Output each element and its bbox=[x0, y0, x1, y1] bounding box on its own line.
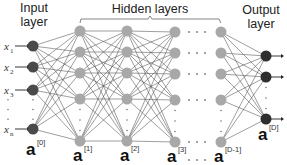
hidden1-neuron-4 bbox=[75, 94, 86, 105]
hidden3-neuron-4 bbox=[170, 95, 181, 106]
svg-text:[3]: [3] bbox=[178, 145, 186, 154]
svg-text:a: a bbox=[120, 146, 130, 165]
output-neuron-1 bbox=[261, 51, 272, 62]
output-layer-label-line2: layer bbox=[247, 17, 274, 31]
svg-text:a: a bbox=[26, 140, 36, 159]
activation-label-aD-1: a[D-1] bbox=[214, 145, 241, 165]
svg-text:a: a bbox=[214, 147, 224, 165]
output-neuron-2 bbox=[261, 72, 272, 83]
hidden2-neuron-1 bbox=[122, 26, 133, 37]
hiddenD-1-neuron-2 bbox=[216, 48, 227, 59]
activation-label-a2: a[2] bbox=[120, 144, 139, 165]
svg-text:n: n bbox=[10, 130, 14, 138]
input-neuron-3 bbox=[28, 85, 39, 96]
hidden-layers-brace bbox=[80, 16, 221, 23]
neural-network-diagram: Input layer Hidden layers Output layer x… bbox=[0, 0, 287, 165]
activation-label-a3: a[3] bbox=[167, 145, 186, 165]
svg-text:[0]: [0] bbox=[37, 138, 45, 147]
svg-text:a: a bbox=[167, 147, 177, 165]
svg-text:2: 2 bbox=[10, 68, 14, 76]
svg-text:[D-1]: [D-1] bbox=[225, 145, 241, 154]
hiddenD-1-neuron-3 bbox=[216, 69, 227, 80]
svg-text:[1]: [1] bbox=[84, 144, 92, 153]
output-layer-label-line1: Output bbox=[242, 3, 280, 17]
svg-text:x: x bbox=[3, 40, 9, 52]
hidden2-neuron-4 bbox=[122, 94, 133, 105]
svg-text:[D]: [D] bbox=[269, 123, 279, 132]
svg-text:a: a bbox=[73, 146, 83, 165]
svg-text:a: a bbox=[258, 125, 268, 144]
hiddenD-1-neuron-1 bbox=[216, 27, 227, 38]
input-neuron-1 bbox=[28, 41, 39, 52]
hidden3-neuron-1 bbox=[170, 27, 181, 38]
input-label-x2: x2 bbox=[3, 61, 14, 76]
activation-label-aD: a[D] bbox=[258, 123, 279, 144]
input-neuron-2 bbox=[28, 62, 39, 73]
hidden2-neuron-2 bbox=[122, 47, 133, 58]
input-layer-label-line2: layer bbox=[20, 15, 47, 29]
hidden1-neuron-3 bbox=[75, 68, 86, 79]
connections bbox=[33, 31, 266, 142]
hidden3-neuron-3 bbox=[170, 69, 181, 80]
input-label-x1: x1 bbox=[3, 40, 14, 55]
hidden1-neuron-2 bbox=[75, 47, 86, 58]
hidden3-neuron-2 bbox=[170, 48, 181, 59]
svg-text:x: x bbox=[3, 123, 9, 135]
hidden1-neuron-1 bbox=[75, 26, 86, 37]
input-label-xn: xn bbox=[3, 123, 14, 138]
activation-label-a0: a[0] bbox=[26, 138, 45, 159]
input-layer-label-line1: Input bbox=[20, 1, 48, 15]
input-label-x3: x3 bbox=[3, 84, 14, 99]
hiddenD-1-neuron-4 bbox=[216, 95, 227, 106]
input-neuron-4 bbox=[28, 124, 39, 135]
svg-text:1: 1 bbox=[10, 47, 14, 55]
svg-text:[2]: [2] bbox=[131, 144, 139, 153]
activation-label-a1: a[1] bbox=[73, 144, 92, 165]
svg-text:3: 3 bbox=[10, 91, 14, 99]
svg-text:x: x bbox=[3, 84, 9, 96]
svg-text:x: x bbox=[3, 61, 9, 73]
hidden2-neuron-3 bbox=[122, 68, 133, 79]
hidden-layers-label: Hidden layers bbox=[112, 2, 188, 16]
